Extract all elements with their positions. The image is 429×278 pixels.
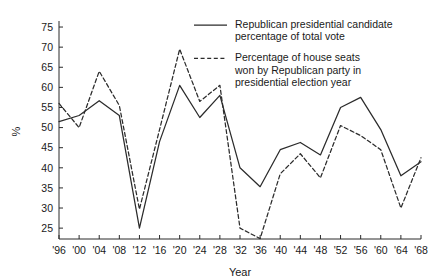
y-tick-label: 35 bbox=[41, 182, 53, 194]
x-tick-label: '64 bbox=[394, 244, 408, 256]
y-tick-label: 65 bbox=[41, 61, 53, 73]
x-tick-label: '20 bbox=[173, 244, 187, 256]
x-tick-label: '08 bbox=[112, 244, 126, 256]
y-tick-label: 75 bbox=[41, 21, 53, 33]
y-tick-label: 60 bbox=[41, 81, 53, 93]
chart-container: 2530354045505560657075%'96'00'04'08'12'1… bbox=[0, 0, 429, 278]
y-tick-label: 25 bbox=[41, 222, 53, 234]
x-tick-label: '68 bbox=[414, 244, 428, 256]
legend-label-line: Percentage of house seats bbox=[235, 51, 360, 63]
x-tick-label: '00 bbox=[72, 244, 86, 256]
y-tick-label: 30 bbox=[41, 202, 53, 214]
line-chart: 2530354045505560657075%'96'00'04'08'12'1… bbox=[0, 0, 429, 278]
x-tick-label: '32 bbox=[233, 244, 247, 256]
x-tick-label: '44 bbox=[293, 244, 307, 256]
legend-label-line: presidential election year bbox=[235, 76, 352, 88]
legend-label-line: won by Republican party in bbox=[234, 64, 361, 76]
legend-label-line: Republican presidential candidate bbox=[235, 18, 393, 30]
x-tick-label: '40 bbox=[273, 244, 287, 256]
legend-label-line: percentage of total vote bbox=[235, 30, 345, 42]
x-tick-label: '04 bbox=[92, 244, 106, 256]
y-tick-label: 50 bbox=[41, 121, 53, 133]
x-tick-label: '36 bbox=[253, 244, 267, 256]
x-axis-title: Year bbox=[229, 266, 252, 278]
x-tick-label: '12 bbox=[133, 244, 147, 256]
y-tick-label: 45 bbox=[41, 141, 53, 153]
x-tick-label: '96 bbox=[52, 244, 66, 256]
x-tick-label: '52 bbox=[334, 244, 348, 256]
x-tick-label: '16 bbox=[153, 244, 167, 256]
y-tick-label: 55 bbox=[41, 101, 53, 113]
y-axis-title: % bbox=[10, 126, 22, 136]
data-series-presidential-vote bbox=[59, 85, 421, 228]
x-tick-label: '60 bbox=[374, 244, 388, 256]
x-tick-label: '56 bbox=[354, 244, 368, 256]
y-tick-label: 40 bbox=[41, 162, 53, 174]
x-tick-label: '48 bbox=[314, 244, 328, 256]
y-tick-label: 70 bbox=[41, 41, 53, 53]
x-tick-label: '28 bbox=[213, 244, 227, 256]
x-tick-label: '24 bbox=[193, 244, 207, 256]
